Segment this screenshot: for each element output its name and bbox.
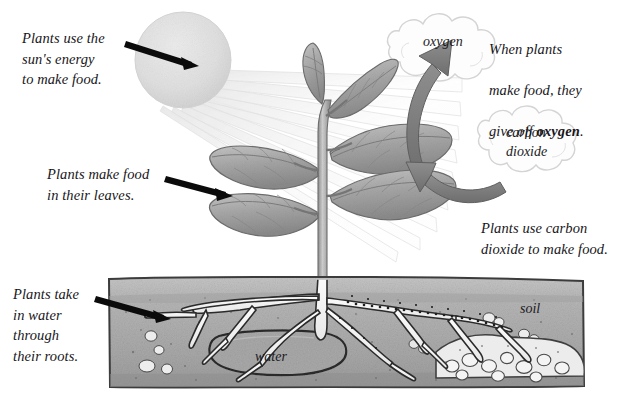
oxygen-note-line3-post: . xyxy=(580,123,584,139)
pointer-arrow-leaf xyxy=(164,176,233,201)
root-hairs xyxy=(339,295,503,349)
photosynthesis-diagram: Plants use the sun's energy to make food… xyxy=(0,0,639,408)
label-soil: soil xyxy=(520,300,540,319)
callout-use-carbon-dioxide: Plants use carbon dioxide to make food. xyxy=(481,218,608,259)
sun xyxy=(135,12,231,108)
label-oxygen: oxygen xyxy=(423,33,463,52)
label-water: water xyxy=(255,348,287,367)
callout-sun-energy: Plants use the sun's energy to make food… xyxy=(22,28,105,90)
soil-block xyxy=(109,277,584,388)
label-carbon-dioxide: carbon dioxide xyxy=(506,124,547,162)
sun-rays xyxy=(160,70,462,262)
oxygen-arrow xyxy=(407,40,452,176)
oxygen-note-line1: When plants xyxy=(489,41,562,57)
carbon-dioxide-arrow xyxy=(406,162,506,203)
root-system xyxy=(145,277,531,382)
soil-pebbles-mid xyxy=(409,340,427,353)
callout-water-roots: Plants take in water through their roots… xyxy=(13,284,79,366)
oxygen-note-line2: make food, they xyxy=(489,82,582,98)
callout-leaves-make-food: Plants make food in their leaves. xyxy=(47,164,149,205)
plant xyxy=(210,43,456,287)
callout-give-off-oxygen: When plants make food, they give off oxy… xyxy=(489,18,584,141)
soil-pebbles-left xyxy=(139,331,173,374)
pointer-arrow-sun xyxy=(124,41,199,70)
pointer-arrow-root xyxy=(94,296,171,323)
gravel-mass xyxy=(436,335,584,382)
